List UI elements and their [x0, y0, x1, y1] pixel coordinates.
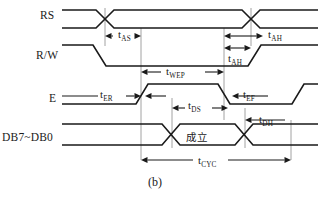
signal-label-rs: RS — [40, 9, 54, 21]
timing-label-t-as: tAS — [118, 29, 130, 40]
dim-tds-arrow-right — [222, 105, 229, 111]
dim-ah-rw-arrow-right — [245, 45, 252, 51]
figure-caption: (b) — [148, 175, 162, 190]
dim-tcyc-arrow-left — [141, 157, 148, 163]
signal-label-e: E — [49, 92, 56, 104]
timing-label-t-er: tER — [100, 89, 112, 100]
timing-label-subscript: WEP — [169, 72, 184, 80]
rw-waveform — [62, 45, 318, 66]
timing-label-subscript: EF — [246, 95, 255, 103]
rs-waveform-lower — [62, 10, 318, 28]
dim-tas-arrow-right — [135, 33, 142, 39]
dim-twep-arrow-right — [218, 69, 225, 75]
timing-label-subscript: AS — [121, 35, 130, 43]
timing-label-t-cyc: tCYC — [198, 155, 216, 166]
timing-label-t-ah-rw: tAH — [228, 53, 242, 64]
dim-tdh-arrow-left — [245, 117, 252, 123]
signal-label-r-w: R/W — [36, 49, 58, 61]
timing-label-subscript: DS — [191, 106, 200, 114]
dim-tds-arrow-left — [172, 105, 179, 111]
timing-label-t-ds: tDS — [188, 100, 200, 111]
timing-label-subscript: CYC — [201, 161, 216, 169]
dim-twep-arrow-left — [141, 69, 148, 75]
timing-label-t-dh: tDH — [259, 114, 273, 125]
signal-label-db7-db0: DB7~DB0 — [2, 131, 53, 143]
data-valid-text: 成立 — [186, 129, 208, 144]
timing-label-t-ef: tEF — [243, 89, 255, 100]
timing-diagram: RSR/WEDB7~DB0 tAStAHtAHtWEPtERtEFtDStDHt… — [0, 0, 324, 197]
timing-label-t-ah-top: tAH — [268, 29, 282, 40]
dim-tef-arrow-left — [232, 93, 239, 99]
dim-ah-rw-arrow-left — [224, 45, 231, 51]
dim-tas-arrow-left — [105, 33, 112, 39]
timing-label-subscript: ER — [103, 95, 112, 103]
dim-ah-top-arrow-left — [224, 33, 231, 39]
rs-waveform-upper — [62, 10, 318, 28]
dim-tcyc-arrow-right — [285, 157, 292, 163]
timing-label-subscript: DH — [262, 120, 273, 128]
timing-label-subscript: AH — [271, 35, 282, 43]
timing-label-t-wep: tWEP — [166, 66, 185, 77]
dim-ter2-arrow-left — [145, 93, 152, 99]
timing-label-subscript: AH — [231, 59, 242, 67]
dim-ah-top-arrow-right — [257, 33, 264, 39]
